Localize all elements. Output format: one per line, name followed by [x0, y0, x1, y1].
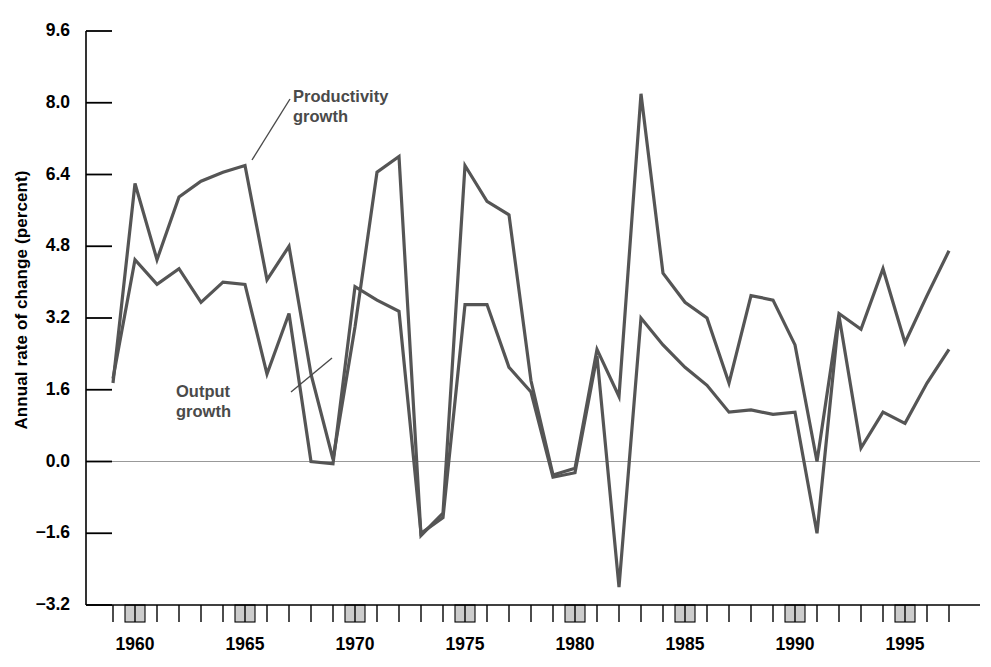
y-axis-tick-label: 3.2: [12, 307, 70, 328]
y-axis-tick-label: 1.6: [12, 379, 70, 400]
y-axis-title: Annual rate of change (percent): [12, 90, 32, 510]
x-axis-tick-label: 1990: [760, 634, 830, 655]
output-growth-label-line2: growth: [176, 401, 231, 421]
x-axis-tick-label: 1960: [100, 634, 170, 655]
x-axis-tick-label: 1965: [210, 634, 280, 655]
productivity-growth-leader-line: [252, 99, 290, 160]
output-growth-label: Output growth: [176, 381, 231, 421]
chart-figure: Annual rate of change (percent) Producti…: [0, 0, 991, 667]
productivity-growth-label-line1: Productivity: [293, 86, 388, 106]
x-axis-tick-label: 1985: [650, 634, 720, 655]
x-axis-tick-label: 1980: [540, 634, 610, 655]
y-axis-tick-label: 0.0: [12, 451, 70, 472]
line-chart-canvas: [0, 0, 991, 667]
y-axis-tick-label: 6.4: [12, 164, 70, 185]
x-axis-tick-label: 1975: [430, 634, 500, 655]
y-axis-tick-label: 9.6: [12, 20, 70, 41]
y-axis-tick-label: −1.6: [12, 522, 70, 543]
x-axis-tick-label: 1970: [320, 634, 390, 655]
productivity-growth-label-line2: growth: [293, 106, 388, 126]
y-axis-tick-label: 8.0: [12, 92, 70, 113]
x-axis-tick-label: 1995: [870, 634, 940, 655]
y-axis-tick-label: −3.2: [12, 594, 70, 615]
output-growth-label-line1: Output: [176, 381, 231, 401]
y-axis-tick-label: 4.8: [12, 235, 70, 256]
productivity-growth-label: Productivity growth: [293, 86, 388, 126]
